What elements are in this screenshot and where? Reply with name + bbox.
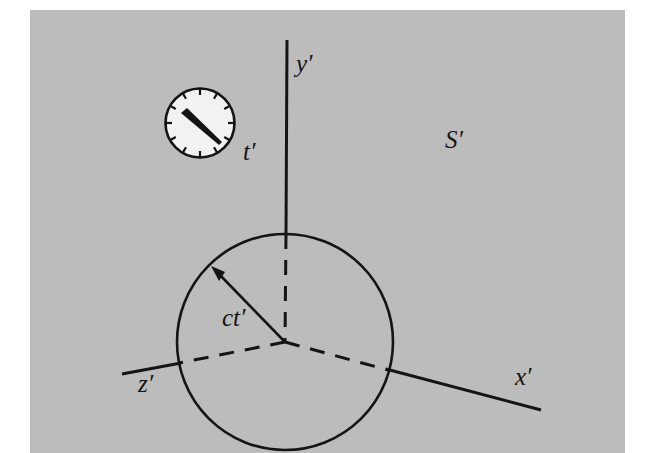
label-frame-s-prime: S′ — [445, 126, 464, 153]
figure-root: S′ y′ x′ z′ t′ ct′ — [0, 0, 664, 453]
x-axis-dashed-segment — [285, 342, 388, 370]
y-axis-dashed-segment — [285, 234, 286, 342]
y-axis-solid-segment — [286, 40, 287, 234]
label-z-axis: z′ — [137, 370, 154, 397]
label-x-axis: x′ — [514, 363, 532, 390]
label-radius-ct-prime: ct′ — [222, 304, 246, 331]
diagram-canvas: S′ y′ x′ z′ t′ ct′ — [0, 0, 664, 453]
z-axis-dashed-segment — [179, 342, 285, 363]
label-y-axis: y′ — [293, 50, 313, 77]
clock — [166, 89, 235, 158]
label-clock-time: t′ — [243, 138, 256, 165]
